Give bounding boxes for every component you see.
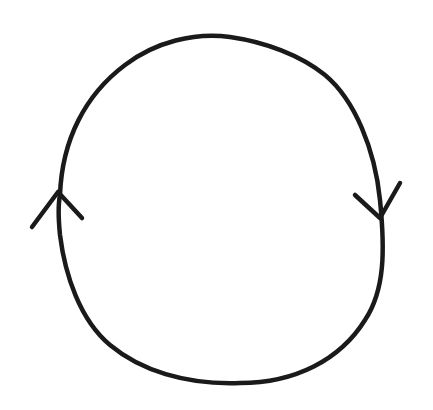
cycle-diagram — [0, 0, 433, 410]
cycle-drawing — [0, 0, 433, 410]
cycle-loop — [59, 36, 383, 383]
